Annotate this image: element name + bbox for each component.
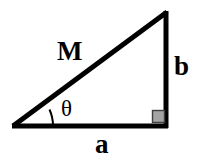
right-angle-marker-icon: [153, 111, 165, 123]
opposite-leg-label: b: [174, 53, 189, 80]
adjacent-leg-label: a: [95, 131, 109, 158]
figure-canvas: M b a θ: [0, 0, 199, 161]
hypotenuse-line: [13, 12, 167, 126]
angle-theta-label: θ: [61, 97, 72, 120]
hypotenuse-label: M: [57, 38, 83, 65]
